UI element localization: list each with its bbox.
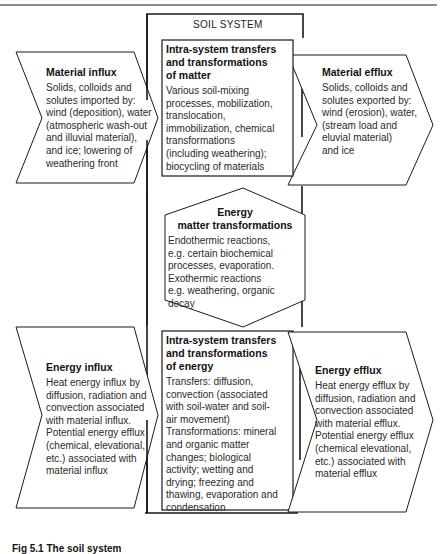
material-efflux-text: Material efflux Solids, colloids and sol… <box>322 66 434 158</box>
energy-transfers-text: Intra-system transfers and transformatio… <box>166 334 292 515</box>
energy-influx-text: Energy influx Heat energy influx by diff… <box>46 361 158 478</box>
matter-transfers-body: Various soil-mixing processes, mobilizat… <box>166 85 292 173</box>
figure-caption: Fig 5.1 The soil system <box>12 543 121 554</box>
material-influx-body: Solids, colloids and solutes imported by… <box>46 82 158 170</box>
material-efflux-title: Material efflux <box>322 66 434 79</box>
energy-matter-text: Energy matter transformations Endothermi… <box>168 206 302 311</box>
energy-influx-body: Heat energy influx by diffusion, radiati… <box>46 377 158 478</box>
matter-transfers-text: Intra-system transfers and transformatio… <box>166 43 292 173</box>
material-influx-text: Material influx Solids, colloids and sol… <box>46 66 158 170</box>
energy-transfers-body: Transfers: diffusion, convection (associ… <box>166 376 292 515</box>
energy-efflux-title: Energy efflux <box>315 364 431 377</box>
energy-matter-body: Endothermic reactions, e.g. certain bioc… <box>168 235 302 311</box>
material-influx-title: Material influx <box>46 66 158 79</box>
soil-system-label: SOIL SYSTEM <box>193 19 263 30</box>
energy-efflux-text: Energy efflux Heat energy efflux by diff… <box>315 364 431 481</box>
energy-efflux-body: Heat energy efflux by diffusion, radiati… <box>315 380 431 481</box>
energy-influx-title: Energy influx <box>46 361 158 374</box>
energy-matter-title: Energy matter transformations <box>168 206 302 232</box>
material-efflux-body: Solids, colloids and solutes exported by… <box>322 82 434 158</box>
matter-transfers-title: Intra-system transfers and transformatio… <box>166 43 292 82</box>
energy-transfers-title: Intra-system transfers and transformatio… <box>166 334 292 373</box>
